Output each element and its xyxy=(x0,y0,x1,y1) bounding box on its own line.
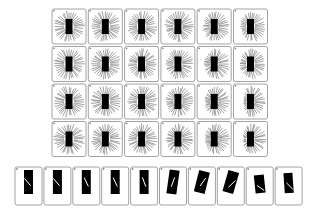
ray-panel xyxy=(88,47,122,82)
black-bar xyxy=(102,94,109,109)
ray-panel xyxy=(234,47,268,82)
bar-panel xyxy=(44,167,71,205)
panel-label-mark xyxy=(53,123,54,124)
black-bar xyxy=(138,94,145,109)
black-bar xyxy=(66,57,73,72)
panel-label-mark xyxy=(162,10,163,11)
ray-panel xyxy=(234,122,268,157)
black-bar xyxy=(211,19,218,34)
panel-label-mark xyxy=(235,123,236,124)
black-bar xyxy=(66,132,73,147)
ray-panel xyxy=(234,84,268,119)
black-bar xyxy=(247,19,254,34)
bar-panel xyxy=(160,167,187,205)
panel-label-mark xyxy=(198,123,199,124)
black-bar xyxy=(174,57,181,72)
panel-label-mark xyxy=(235,10,236,11)
black-bar xyxy=(247,94,254,109)
black-bar xyxy=(174,132,181,147)
panel-label-mark xyxy=(247,168,248,170)
bar-panel xyxy=(102,167,129,205)
bar-panel xyxy=(217,167,244,205)
ray-grid xyxy=(52,9,268,157)
panel-label-mark xyxy=(53,48,54,49)
black-bar xyxy=(138,57,145,72)
black-bar xyxy=(66,94,73,109)
ray-panel xyxy=(161,122,195,157)
bar-panel xyxy=(131,167,158,205)
ray-panel xyxy=(52,122,86,157)
black-bar xyxy=(24,170,33,194)
ray-panel xyxy=(52,47,86,82)
bar-panel xyxy=(15,167,42,205)
black-bar xyxy=(247,57,254,72)
panel-label-mark xyxy=(235,48,236,49)
ray-panel xyxy=(197,122,231,157)
panel-label-mark xyxy=(126,10,127,11)
black-bar xyxy=(102,19,109,34)
black-bar xyxy=(283,173,293,194)
ray-panel xyxy=(161,47,195,82)
bar-panel xyxy=(73,167,100,205)
ray-panel xyxy=(52,9,86,44)
panel-label-mark xyxy=(103,168,104,170)
panel-label-mark xyxy=(74,168,75,170)
ray-panel xyxy=(125,47,159,82)
figure-canvas xyxy=(0,0,317,217)
black-bar xyxy=(174,19,181,34)
ray-panel xyxy=(161,84,195,119)
ray-panel xyxy=(125,122,159,157)
panel-label-mark xyxy=(126,85,127,86)
black-bar xyxy=(53,170,62,194)
bar-panel xyxy=(275,167,302,205)
ray-panel xyxy=(197,9,231,44)
panel-label-mark xyxy=(90,10,91,11)
panel-label-mark xyxy=(90,48,91,49)
bar-strip xyxy=(15,167,302,205)
black-bar xyxy=(247,132,254,147)
ray-panel xyxy=(52,84,86,119)
panel-label-mark xyxy=(90,85,91,86)
panel-label-mark xyxy=(162,85,163,86)
ray-panel xyxy=(161,9,195,44)
panel-label-mark xyxy=(126,123,127,124)
panel-label-mark xyxy=(235,85,236,86)
panel-label-mark xyxy=(198,10,199,11)
ray-panel xyxy=(197,47,231,82)
panel-label-mark xyxy=(161,168,162,170)
ray-panel xyxy=(125,84,159,119)
ray-panel xyxy=(88,84,122,119)
panel-label-mark xyxy=(198,48,199,49)
black-bar xyxy=(174,94,181,109)
ray-panel xyxy=(88,9,122,44)
panel-label-mark xyxy=(90,123,91,124)
black-bar xyxy=(138,19,145,34)
panel-label-mark xyxy=(16,168,17,170)
panel-label-mark xyxy=(53,85,54,86)
black-bar xyxy=(102,57,109,72)
panel-label-mark xyxy=(276,168,277,170)
panel-label-mark xyxy=(162,123,163,124)
black-bar xyxy=(66,19,73,34)
black-bar xyxy=(211,94,218,109)
panel-label-mark xyxy=(53,10,54,11)
black-bar xyxy=(138,132,145,147)
panel-label-mark xyxy=(198,85,199,86)
ray-panel xyxy=(234,9,268,44)
panel-label-mark xyxy=(45,168,46,170)
panel-label-mark xyxy=(132,168,133,170)
panel-label-mark xyxy=(219,168,220,170)
ray-panel xyxy=(197,84,231,119)
bar-panel xyxy=(246,167,273,205)
black-bar xyxy=(102,132,109,147)
panel-label-mark xyxy=(190,168,191,170)
panel-label-mark xyxy=(126,48,127,49)
black-bar xyxy=(211,132,218,147)
black-bar xyxy=(211,57,218,72)
bar-panel xyxy=(188,167,215,205)
ray-panel xyxy=(88,122,122,157)
panel-label-mark xyxy=(162,48,163,49)
ray-panel xyxy=(125,9,159,44)
